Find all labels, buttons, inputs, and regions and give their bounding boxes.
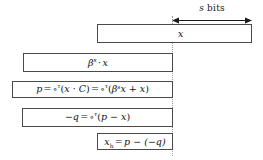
p-first-arg: x · C [64, 83, 86, 94]
p-second-arg: βˢx + x [112, 83, 145, 94]
veltkamp-splitting-diagram: s bits x βs·x p=∘τ(x · C)=∘τ(βˢx + x) −q… [0, 0, 263, 160]
beta-operand: x [103, 57, 108, 68]
register-box-neg-q: −q=∘τ(p − x) [22, 108, 173, 127]
double-headed-arrow-icon [172, 17, 252, 24]
register-box-xh: xh=p − (−q) [97, 133, 173, 150]
expression-x-symbol: x [178, 28, 183, 39]
xh-rhs: p − (−q) [124, 136, 166, 147]
expression-beta-x: βs·x [88, 58, 108, 68]
expression-p: p=∘τ(x · C)=∘τ(βˢx + x) [36, 84, 149, 94]
neg-q-lhs: −q [65, 111, 79, 122]
expression-x: x [98, 29, 183, 39]
expression-neg-q: −q=∘τ(p − x) [65, 112, 130, 122]
register-box-x: x [97, 24, 252, 43]
xh-equals: = [113, 136, 124, 147]
p-equals-2: = [90, 83, 101, 94]
register-box-beta-x: βs·x [23, 53, 173, 72]
s-bits-measurement: s bits [170, 4, 254, 24]
s-bits-label: s bits [170, 3, 254, 13]
expression-xh: xh=p − (−q) [104, 137, 165, 147]
s-bits-label-text: bits [204, 3, 225, 13]
p-equals-1: = [42, 83, 53, 94]
neg-q-arg: p − x [101, 111, 126, 122]
register-box-p: p=∘τ(x · C)=∘τ(βˢx + x) [12, 81, 173, 98]
neg-q-equals: = [79, 111, 90, 122]
